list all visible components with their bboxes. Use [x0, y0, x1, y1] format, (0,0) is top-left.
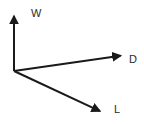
axis-label-l: L — [114, 104, 120, 115]
axes-svg — [0, 0, 144, 124]
axis-line-d — [14, 56, 121, 71]
axes-diagram: W D L — [0, 0, 144, 124]
axis-label-w: W — [31, 8, 41, 19]
axis-line-l — [14, 71, 100, 111]
axis-label-d: D — [129, 54, 137, 65]
